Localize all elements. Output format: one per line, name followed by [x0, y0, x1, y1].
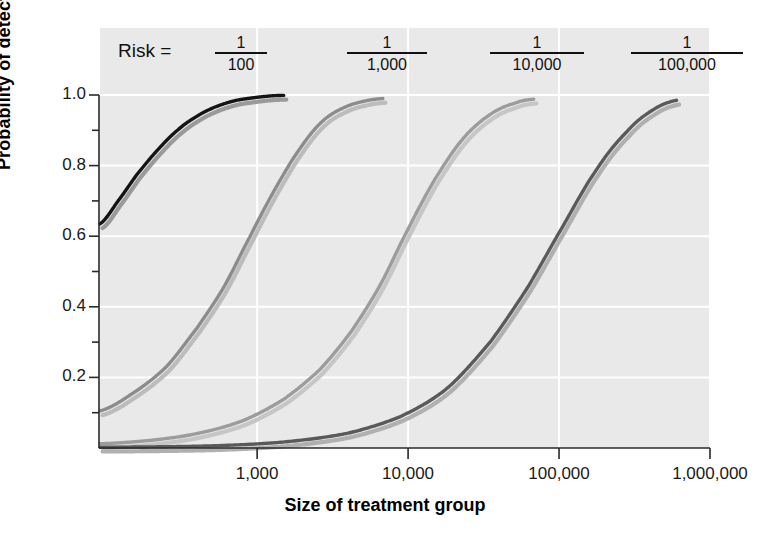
curves-group — [100, 95, 679, 451]
curve-2 — [100, 99, 383, 411]
x-tick-label: 100,000 — [489, 464, 629, 484]
risk-numerator: 1 — [212, 34, 270, 52]
risk-denominator: 10,000 — [487, 54, 587, 75]
risk-numerator: 1 — [344, 34, 430, 52]
risk-fraction-2: 11,000 — [344, 34, 430, 75]
risk-legend: Risk = 110011,000110,0001100,000 — [100, 30, 710, 92]
risk-legend-prefix: Risk = — [118, 40, 171, 62]
x-tick-label: 1,000,000 — [640, 464, 770, 484]
y-tick-label: 0.2 — [30, 366, 86, 386]
y-axis-title: Probability of detection — [0, 0, 15, 170]
y-tick-label: 0.8 — [30, 155, 86, 175]
risk-denominator: 100 — [212, 54, 270, 75]
risk-numerator: 1 — [487, 34, 587, 52]
curve-shadow-3 — [103, 103, 537, 448]
x-axis-title: Size of treatment group — [0, 495, 770, 516]
y-tick-label: 0.6 — [30, 225, 86, 245]
risk-fraction-1: 1100 — [212, 34, 270, 75]
risk-denominator: 100,000 — [628, 54, 746, 75]
risk-fraction-3: 110,000 — [487, 34, 587, 75]
curve-shadow-2 — [103, 103, 386, 415]
x-tick-label: 10,000 — [338, 464, 478, 484]
figure-container: 0.20.40.60.81.0 1,00010,000100,0001,000,… — [0, 0, 770, 538]
y-tick-label: 1.0 — [30, 84, 86, 104]
x-tick-label: 1,000 — [187, 464, 327, 484]
risk-denominator: 1,000 — [344, 54, 430, 75]
risk-numerator: 1 — [628, 34, 746, 52]
risk-fraction-4: 1100,000 — [628, 34, 746, 75]
curve-4 — [100, 100, 677, 447]
y-tick-label: 0.4 — [30, 296, 86, 316]
